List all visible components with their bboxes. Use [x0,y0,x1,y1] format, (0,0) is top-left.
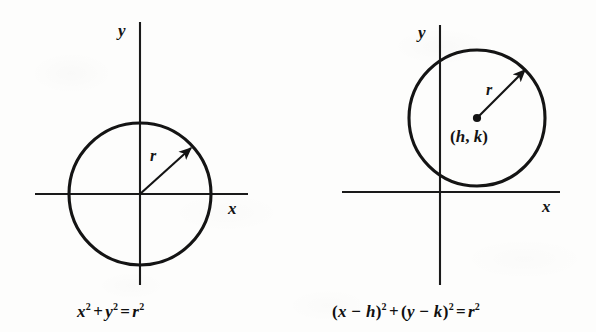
caption-equals: = [118,302,132,321]
x-axis-label: x [542,198,551,215]
radius-arrow [140,148,191,194]
center-label-close: ) [482,127,488,146]
caption-equals: = [454,302,468,321]
y-axis-label: y [418,24,426,41]
radius-arrow [477,70,525,118]
panel-circle-at-hk: y x r (h, k) (x − h)2+(y − k)2=r2 [298,0,596,332]
x-axis-label: x [228,200,237,217]
diagram-right [298,0,596,300]
center-label-h: h [456,127,465,146]
y-axis-label: y [118,22,126,39]
radius-label: r [486,82,492,98]
diagram-left [0,0,298,300]
radius-label: r [150,148,156,164]
caption-group-y: (y − k) [401,302,449,321]
center-label-k: k [474,127,483,146]
caption-term-y: y [105,302,113,321]
caption-term-x: x [77,302,86,321]
caption-exponent-r: 2 [475,301,480,312]
caption-equation-origin: x2+y2=r2 [77,303,145,320]
figure-canvas: y x r x2+y2=r2 y x r [0,0,596,332]
caption-plus: + [387,302,401,321]
center-coordinate-label: (h, k) [450,128,488,145]
panel-circle-at-origin: y x r x2+y2=r2 [0,0,298,332]
caption-exponent-r: 2 [139,301,144,312]
caption-equation-hk: (x − h)2+(y − k)2=r2 [332,303,480,320]
caption-term-r: r [468,302,475,321]
caption-plus: + [91,302,105,321]
center-label-comma: , [465,127,474,146]
caption-group-x: (x − h) [332,302,382,321]
